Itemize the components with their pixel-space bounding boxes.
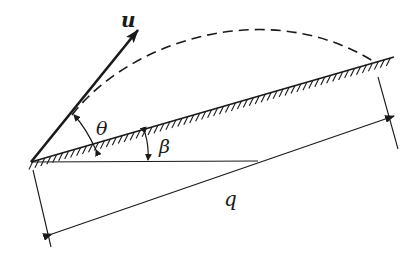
projectile-incline-diagram: u θ β q <box>0 0 419 259</box>
beta-angle-arc <box>145 133 148 160</box>
dashed-trajectory <box>72 30 376 115</box>
range-extension-right <box>378 77 398 149</box>
incline-hatching <box>29 58 390 169</box>
incline-angle-label-beta: β <box>158 135 170 157</box>
launch-angle-label-theta: θ <box>96 117 108 139</box>
velocity-label-u: u <box>121 8 136 32</box>
range-extension-left <box>33 170 51 247</box>
velocity-vector-u <box>31 30 138 162</box>
incline-surface-line <box>31 57 394 162</box>
range-label-q: q <box>224 187 237 211</box>
horizontal-reference-line <box>31 161 258 162</box>
